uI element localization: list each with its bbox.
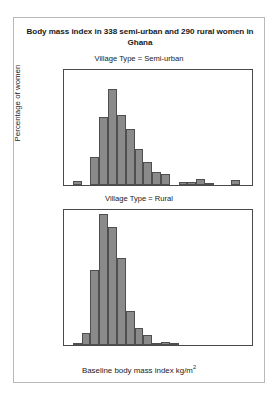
y-tick-mark xyxy=(63,101,64,102)
histogram-bar xyxy=(161,342,170,345)
y-tick-mark xyxy=(63,295,64,296)
y-tick-mark xyxy=(63,164,64,165)
histogram-bar xyxy=(152,172,161,185)
histogram-bar xyxy=(143,162,152,185)
y-tick-mark xyxy=(63,122,64,123)
y-tick-mark xyxy=(63,271,64,272)
histogram-bar xyxy=(135,328,144,345)
histogram-bar xyxy=(196,179,205,185)
histogram-rural: 051015202510203040 xyxy=(63,209,253,346)
x-axis-label: Baseline body mass index kg/m2 xyxy=(14,364,264,375)
histogram-bar xyxy=(205,183,214,185)
x-tick-mark xyxy=(66,345,67,346)
histogram-semi-urban: 0510152025 xyxy=(63,69,253,186)
y-tick-mark xyxy=(63,80,64,81)
histogram-bar xyxy=(82,333,91,345)
x-tick-mark xyxy=(184,345,185,346)
histogram-bar xyxy=(108,227,117,345)
histogram-bar xyxy=(161,174,170,185)
x-tick-mark xyxy=(125,345,126,346)
y-tick-mark xyxy=(63,143,64,144)
histogram-bar xyxy=(90,157,99,185)
histogram-bar xyxy=(99,214,108,345)
histogram-bar xyxy=(179,182,188,185)
panel-label-semi-urban: Village Type = Semi-urban xyxy=(14,54,264,63)
histogram-bar xyxy=(108,89,117,185)
histogram-bar xyxy=(126,311,135,345)
y-tick-mark xyxy=(63,246,64,247)
histogram-bar xyxy=(90,270,99,345)
histogram-bar xyxy=(126,129,135,185)
histogram-bar xyxy=(143,335,152,345)
panel-label-rural: Village Type = Rural xyxy=(14,194,264,203)
histogram-bar xyxy=(187,182,196,185)
y-tick-mark xyxy=(63,345,64,346)
y-tick-mark xyxy=(63,185,64,186)
y-tick-mark xyxy=(63,222,64,223)
x-axis-label-exponent: 2 xyxy=(193,364,196,370)
histogram-bar xyxy=(117,115,126,185)
figure-panel: Body mass index in 338 semi-urban and 29… xyxy=(13,17,265,383)
histogram-bar xyxy=(73,343,82,345)
x-axis-label-text: Baseline body mass index kg/m xyxy=(82,366,193,375)
chart-title: Body mass index in 338 semi-urban and 29… xyxy=(24,27,256,48)
y-tick-mark xyxy=(63,320,64,321)
histogram-bar xyxy=(117,258,126,345)
histogram-bar xyxy=(231,180,240,185)
x-tick-mark xyxy=(243,345,244,346)
histogram-bar xyxy=(135,149,144,185)
histogram-bar xyxy=(99,117,108,185)
histogram-bar xyxy=(73,181,82,185)
histogram-bar xyxy=(152,343,161,345)
histogram-bar xyxy=(170,343,179,345)
